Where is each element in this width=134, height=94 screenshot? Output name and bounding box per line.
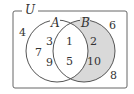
element-10: 10 [87,55,101,68]
element-6: 6 [109,19,116,32]
set-b-label: B [80,16,90,30]
element-7: 7 [35,46,42,59]
element-5: 5 [66,55,73,68]
element-1: 1 [66,35,73,48]
venn-diagram: U A B 3 7 9 1 5 2 10 4 6 8 [0,0,134,94]
element-4: 4 [19,26,26,39]
element-8: 8 [110,69,117,82]
universe-label: U [25,3,36,17]
element-9: 9 [46,56,53,69]
element-3: 3 [46,35,53,48]
set-a-label: A [50,16,60,30]
element-2: 2 [90,35,97,48]
